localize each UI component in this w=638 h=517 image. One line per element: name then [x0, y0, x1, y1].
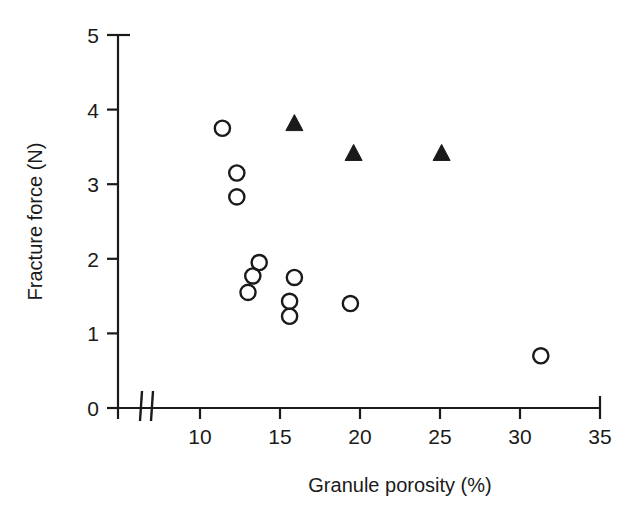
scatter-plot-figure: 012345101520253035Granule porosity (%)Fr… [0, 0, 638, 517]
data-point-circle[interactable] [245, 268, 260, 283]
axis-break-slash [151, 391, 153, 421]
y-tick-label: 5 [87, 24, 99, 47]
y-tick-label: 1 [87, 322, 99, 345]
data-point-circle[interactable] [240, 285, 255, 300]
data-point-circle[interactable] [215, 121, 230, 136]
data-point-circle[interactable] [229, 189, 244, 204]
data-point-triangle[interactable] [345, 144, 362, 160]
y-axis-title: Fracture force (N) [24, 143, 46, 301]
x-tick-label: 20 [348, 425, 371, 448]
x-tick-label: 30 [508, 425, 531, 448]
x-axis-title: Granule porosity (%) [308, 474, 491, 496]
data-point-circle[interactable] [282, 309, 297, 324]
plot-canvas: 012345101520253035Granule porosity (%)Fr… [0, 0, 638, 517]
y-tick-label: 3 [87, 173, 99, 196]
axis-break-slash [140, 391, 142, 421]
x-tick-label: 35 [588, 425, 611, 448]
data-point-triangle[interactable] [286, 115, 303, 131]
x-axis-break [140, 391, 153, 421]
x-tick-label: 25 [428, 425, 451, 448]
data-point-circle[interactable] [533, 348, 548, 363]
series-open-circle [215, 121, 549, 364]
x-tick-label: 15 [268, 425, 291, 448]
x-tick-label: 10 [188, 425, 211, 448]
y-tick-label: 2 [87, 248, 99, 271]
series-filled-triangle [286, 115, 450, 161]
data-point-triangle[interactable] [433, 144, 450, 160]
axes-group: 012345101520253035 [87, 24, 611, 448]
data-point-circle[interactable] [343, 296, 358, 311]
data-point-circle[interactable] [229, 165, 244, 180]
y-tick-label: 0 [87, 397, 99, 420]
data-points-group [215, 115, 549, 364]
data-point-circle[interactable] [282, 294, 297, 309]
y-tick-label: 4 [87, 99, 99, 122]
data-point-circle[interactable] [287, 270, 302, 285]
